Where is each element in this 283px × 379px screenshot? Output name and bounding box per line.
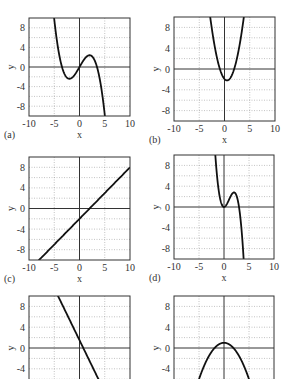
y-tick-label: 4 xyxy=(165,322,170,333)
y-tick-label: -4 xyxy=(162,363,170,374)
y-axis-label: y xyxy=(150,346,161,351)
chart-panel-f: 840-4y xyxy=(0,0,283,379)
y-tick-label: 0 xyxy=(165,343,170,354)
y-tick-label: 8 xyxy=(165,301,170,312)
